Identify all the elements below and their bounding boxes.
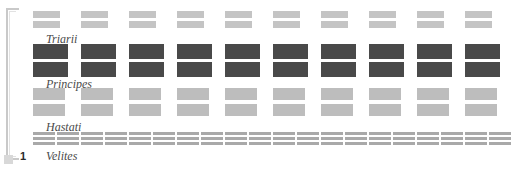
unit-block-velites	[345, 137, 367, 140]
unit-triarii	[369, 11, 396, 28]
unit-block-hastati	[321, 88, 353, 100]
unit-principes	[369, 44, 404, 77]
unit-velites	[129, 132, 151, 145]
unit-block-hastati	[129, 88, 161, 100]
unit-block-principes	[465, 62, 500, 77]
unit-block-velites	[249, 137, 271, 140]
unit-velites	[369, 132, 391, 145]
unit-block-principes	[33, 62, 68, 77]
unit-block-hastati	[225, 104, 257, 116]
unit-block-velites	[249, 132, 271, 135]
unit-block-principes	[129, 62, 164, 77]
unit-velites	[417, 132, 439, 145]
unit-block-velites	[465, 137, 487, 140]
unit-block-velites	[321, 132, 343, 135]
unit-block-velites	[321, 142, 343, 145]
unit-block-hastati	[177, 88, 209, 100]
unit-block-principes	[321, 44, 356, 59]
unit-hastati	[369, 88, 401, 116]
unit-block-triarii	[465, 21, 492, 28]
unit-hastati	[273, 88, 305, 116]
unit-hastati	[33, 88, 65, 116]
unit-block-velites	[297, 137, 319, 140]
legion-bracket-inner	[9, 11, 16, 157]
unit-triarii	[225, 11, 252, 28]
unit-block-hastati	[465, 88, 497, 100]
unit-block-velites	[345, 132, 367, 135]
unit-triarii	[273, 11, 300, 28]
unit-triarii	[33, 11, 60, 28]
unit-block-triarii	[129, 21, 156, 28]
unit-block-hastati	[33, 88, 65, 100]
unit-block-triarii	[273, 11, 300, 18]
unit-block-principes	[81, 44, 116, 59]
unit-block-hastati	[321, 104, 353, 116]
unit-velites	[105, 132, 127, 145]
unit-block-triarii	[225, 11, 252, 18]
unit-block-principes	[177, 44, 212, 59]
unit-block-principes	[33, 44, 68, 59]
unit-triarii	[321, 11, 348, 28]
unit-block-hastati	[129, 104, 161, 116]
unit-block-triarii	[81, 21, 108, 28]
unit-block-velites	[33, 132, 55, 135]
unit-block-velites	[225, 132, 247, 135]
unit-block-velites	[153, 142, 175, 145]
unit-block-triarii	[417, 11, 444, 18]
unit-block-velites	[81, 132, 103, 135]
unit-block-triarii	[273, 21, 300, 28]
unit-block-velites	[105, 142, 127, 145]
unit-block-velites	[441, 132, 463, 135]
unit-velites	[489, 132, 511, 145]
unit-velites	[153, 132, 175, 145]
unit-velites	[225, 132, 247, 145]
unit-hastati	[225, 88, 257, 116]
unit-block-hastati	[465, 104, 497, 116]
unit-block-triarii	[177, 21, 204, 28]
unit-block-hastati	[273, 88, 305, 100]
troop-row-principes	[33, 44, 513, 77]
unit-block-velites	[393, 132, 415, 135]
unit-block-velites	[225, 137, 247, 140]
unit-velites	[297, 132, 319, 145]
unit-block-triarii	[33, 21, 60, 28]
unit-block-velites	[417, 142, 439, 145]
unit-block-triarii	[417, 21, 444, 28]
unit-block-velites	[201, 142, 223, 145]
unit-strip-velites	[33, 132, 513, 145]
unit-block-velites	[225, 142, 247, 145]
troop-row-triarii	[33, 11, 513, 28]
unit-block-velites	[129, 132, 151, 135]
legion-number: 1	[20, 150, 26, 162]
unit-block-velites	[105, 132, 127, 135]
unit-block-velites	[249, 142, 271, 145]
unit-velites	[249, 132, 271, 145]
troop-row-velites	[33, 132, 513, 145]
unit-triarii	[81, 11, 108, 28]
unit-block-triarii	[321, 21, 348, 28]
unit-strip-triarii	[33, 11, 513, 28]
unit-block-velites	[105, 137, 127, 140]
unit-block-principes	[321, 62, 356, 77]
unit-principes	[321, 44, 356, 77]
unit-block-velites	[33, 142, 55, 145]
unit-block-hastati	[273, 104, 305, 116]
unit-block-principes	[369, 62, 404, 77]
unit-block-velites	[201, 137, 223, 140]
unit-velites	[465, 132, 487, 145]
unit-block-principes	[417, 62, 452, 77]
unit-block-velites	[57, 132, 79, 135]
unit-velites	[321, 132, 343, 145]
unit-block-principes	[129, 44, 164, 59]
unit-block-triarii	[225, 21, 252, 28]
unit-principes	[417, 44, 452, 77]
unit-block-velites	[465, 132, 487, 135]
unit-block-velites	[417, 132, 439, 135]
unit-block-velites	[177, 132, 199, 135]
unit-block-velites	[393, 137, 415, 140]
unit-block-triarii	[129, 11, 156, 18]
unit-velites	[393, 132, 415, 145]
unit-triarii	[177, 11, 204, 28]
unit-block-hastati	[81, 104, 113, 116]
unit-principes	[177, 44, 212, 77]
